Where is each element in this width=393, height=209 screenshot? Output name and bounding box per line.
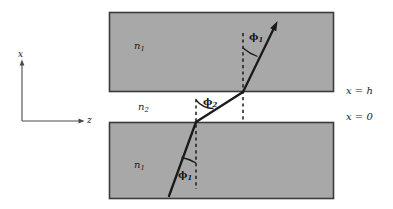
- medium-index-label-upper: n1: [134, 41, 145, 51]
- interface-label-bottom: x = 0: [346, 112, 373, 122]
- angle-symbol-phi1-upper: ϕ: [249, 31, 258, 42]
- angle-symbol-phi2: ϕ: [203, 96, 212, 107]
- z-axis-arrowhead: [79, 119, 85, 124]
- medium-index-sub-middle: 2: [144, 106, 148, 114]
- angle-sub-phi1-lower: 1: [187, 174, 192, 182]
- x-axis-arrowhead: [20, 60, 25, 66]
- medium-index-label-middle: n2: [138, 102, 149, 112]
- z-axis-label: z: [87, 116, 92, 125]
- angle-sub-phi1-upper: 1: [258, 36, 263, 44]
- medium-index-label-lower: n1: [134, 160, 145, 170]
- angle-symbol-phi1-lower: ϕ: [178, 169, 187, 180]
- angle-label-phi1-upper: ϕ1: [249, 32, 263, 42]
- medium-index-sub-lower: 1: [140, 164, 144, 172]
- angle-label-phi2: ϕ2: [203, 97, 217, 107]
- medium-index-sub-upper: 1: [140, 45, 144, 53]
- angle-label-phi1-lower: ϕ1: [178, 170, 192, 180]
- coordinate-axes: [20, 60, 85, 124]
- interface-label-top: x = h: [346, 86, 373, 96]
- x-axis-label: x: [18, 50, 23, 59]
- refraction-diagram: x z n1 n2 n1 ϕ1 ϕ2 ϕ1 x = h x = 0: [0, 0, 393, 209]
- angle-sub-phi2: 2: [212, 101, 217, 109]
- diagram-canvas: [0, 0, 393, 209]
